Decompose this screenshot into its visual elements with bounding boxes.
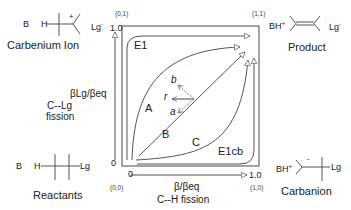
coord-bottom-right: (1,0) [250, 185, 263, 192]
carbenium-h: H [41, 20, 48, 29]
y-axis-label: βLg/βeq [70, 89, 107, 99]
y-axis-start: 0 [111, 159, 116, 168]
carbanion-base: BH+ [276, 163, 292, 174]
path-label-e1: E1 [134, 40, 147, 51]
path-e1 [127, 36, 250, 160]
more-ofarrall-jencks-diagram: (0,1) (1,1) (0,0) (1,0) B H + Lg- Carben… [0, 0, 351, 210]
reactants-leaving-group: Lg [80, 162, 90, 171]
path-label-e1cb: E1cb [218, 146, 243, 157]
vector-a [178, 99, 194, 113]
path-label-b: B [162, 129, 169, 140]
y-axis-sublabel-1: C--Lg [47, 101, 72, 111]
product-base: BH+ [269, 20, 285, 31]
path-label-c: C [192, 137, 200, 148]
vector-b [178, 85, 194, 99]
reactants-label: Reactants [33, 190, 83, 201]
product-leaving-group: Lg- [329, 21, 341, 32]
carbanion-charge: - [307, 155, 310, 163]
carbanion-label: Carbanion [281, 186, 332, 197]
reactants-base: B [16, 162, 22, 171]
carbenium-leaving-group: Lg- [91, 21, 103, 32]
carbenium-charge: + [69, 13, 74, 21]
carbanion-leaving-group: Lg [331, 163, 341, 172]
coord-top-right: (1,1) [252, 11, 265, 18]
product-structure [290, 16, 320, 31]
reactants-h: H [34, 162, 41, 171]
reactants-structure [41, 154, 80, 180]
coord-top-left: (0,1) [115, 11, 128, 18]
vector-label-a: a [170, 107, 176, 117]
carbenium-ion-label: Carbenium Ion [7, 40, 79, 51]
product-label: Product [288, 42, 326, 53]
vector-label-b: b [171, 75, 177, 85]
x-axis-start: 0 [128, 170, 133, 179]
y-axis-end: 1.0 [110, 24, 123, 33]
x-axis-sublabel: C--H fission [157, 195, 209, 205]
x-axis-end: 1.0 [249, 171, 262, 180]
carbanion-structure [296, 157, 330, 181]
y-axis-sublabel-2: fission [46, 112, 74, 122]
carbenium-base: B [23, 20, 29, 29]
x-axis-label: β/βeq [174, 182, 199, 192]
vector-label-r: r [164, 92, 167, 102]
carbenium-ion-structure [46, 13, 80, 36]
coord-bottom-left: (0,0) [110, 185, 123, 192]
path-label-a: A [145, 103, 152, 114]
